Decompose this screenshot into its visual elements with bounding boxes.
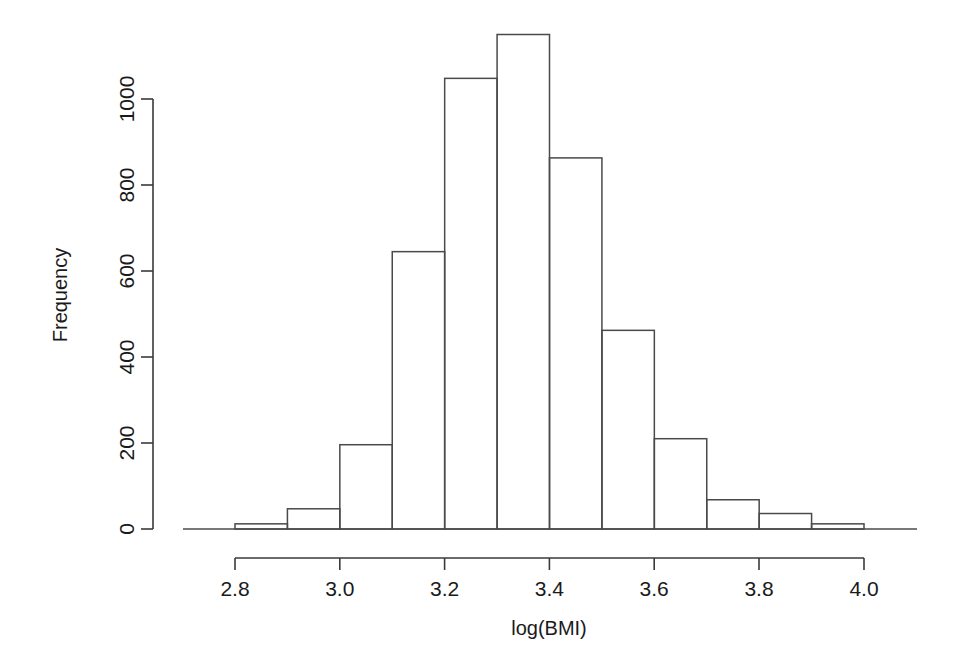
x-tick-label-3-6: 3.6 <box>640 577 669 600</box>
histogram-figure: 1000 800 600 400 200 0 Frequency <box>0 0 960 657</box>
histogram-bar-7 <box>550 158 602 529</box>
histogram-bar-10 <box>707 500 759 529</box>
histogram-bar-1 <box>235 524 287 529</box>
histogram-bar-8 <box>602 330 654 529</box>
histogram-bar-4 <box>392 252 444 529</box>
histogram-bar-12 <box>812 524 864 529</box>
histogram-bar-2 <box>287 509 339 529</box>
histogram-plot-area: 1000 800 600 400 200 0 Frequency <box>0 0 960 657</box>
x-tick-label-3-0: 3.0 <box>325 577 354 600</box>
x-tick-label-3-4: 3.4 <box>535 577 565 600</box>
y-tick-label-600: 600 <box>115 253 138 288</box>
x-axis-ticks <box>235 558 864 570</box>
histogram-bar-3 <box>340 445 392 529</box>
y-axis: 1000 800 600 400 200 0 Frequency <box>49 76 153 535</box>
x-axis-title: log(BMI) <box>511 617 587 639</box>
y-axis-title: Frequency <box>49 248 71 343</box>
x-tick-label-2-8: 2.8 <box>220 577 249 600</box>
x-axis: 2.8 3.0 3.2 3.4 3.6 3.8 4.0 log(BMI) <box>220 558 878 639</box>
histogram-bar-5 <box>445 78 497 529</box>
x-tick-label-3-8: 3.8 <box>744 577 773 600</box>
histogram-bar-9 <box>654 439 706 529</box>
x-tick-label-4-0: 4.0 <box>849 577 878 600</box>
y-axis-tick-labels: 1000 800 600 400 200 0 <box>115 76 138 535</box>
x-axis-tick-labels: 2.8 3.0 3.2 3.4 3.6 3.8 4.0 <box>220 577 878 600</box>
histogram-bars <box>183 35 917 530</box>
y-tick-label-800: 800 <box>115 167 138 202</box>
histogram-bar-11 <box>759 514 811 529</box>
histogram-bar-6 <box>497 35 549 530</box>
y-tick-label-200: 200 <box>115 425 138 460</box>
y-tick-label-0: 0 <box>115 523 138 535</box>
x-tick-label-3-2: 3.2 <box>430 577 459 600</box>
y-tick-label-1000: 1000 <box>115 76 138 123</box>
y-axis-ticks <box>141 99 153 529</box>
y-tick-label-400: 400 <box>115 339 138 374</box>
